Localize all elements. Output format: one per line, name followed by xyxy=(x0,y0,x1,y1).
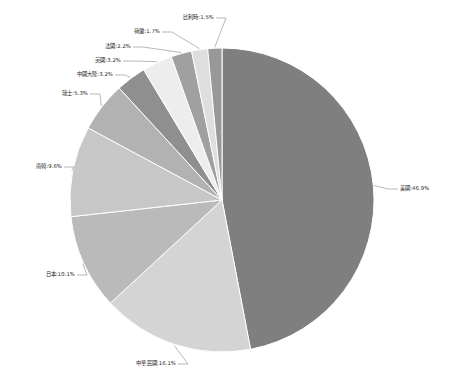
pie-slice-label: 瑞士:5.3% xyxy=(62,91,88,97)
pie-slice-label: 美國:46.9% xyxy=(400,186,429,192)
pie-label-leader-line xyxy=(374,186,398,189)
pie-label-leader-line xyxy=(123,61,157,62)
pie-slices-group xyxy=(70,48,374,352)
pie-slice-label: 荷蘭:1.7% xyxy=(134,29,160,35)
pie-slice-label: 比利時:1.5% xyxy=(183,15,214,21)
pie-slice-label: 南韓:9.6% xyxy=(36,164,62,170)
pie-slice-label: 英國:3.2% xyxy=(95,58,121,64)
pie-label-leader-line xyxy=(64,167,74,171)
pie-label-leader-line xyxy=(115,75,130,77)
pie-slice[interactable] xyxy=(222,48,374,349)
pie-label-leader-line xyxy=(90,94,101,106)
pie-slice-label: 法國:2.2% xyxy=(105,44,131,50)
pie-chart-canvas xyxy=(0,0,454,392)
pie-label-leader-line xyxy=(133,47,181,53)
pie-slice-label: 中華民國:16.1% xyxy=(136,361,176,367)
pie-slice-label: 中國大陸:3.2% xyxy=(77,72,113,78)
pie-label-leader-line xyxy=(215,18,226,47)
pie-label-leader-line xyxy=(162,32,199,49)
pie-chart-figure: 美國:46.9%中華民國:16.1%日本:10.1%南韓:9.6%瑞士:5.3%… xyxy=(0,0,454,392)
pie-slice-label: 日本:10.1% xyxy=(46,272,75,278)
